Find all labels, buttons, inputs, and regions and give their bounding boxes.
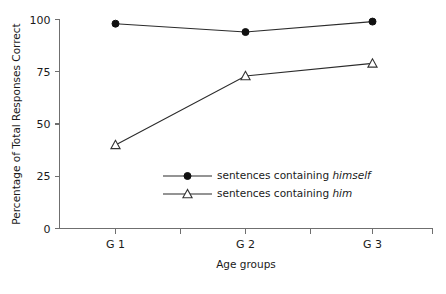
legend-label-emphasis-0: himself: [332, 169, 373, 181]
data-point-s1-2: [368, 59, 377, 67]
x-axis-title: Age groups: [216, 258, 276, 270]
x-axis-tick-labels: G 1G 2G 3: [106, 238, 382, 251]
x-tick-label-2: G 3: [363, 238, 382, 251]
data-point-s1-0: [111, 140, 120, 148]
y-tick-label-75: 75: [37, 66, 51, 79]
data-point-s0-2: [369, 18, 376, 25]
legend-label-prefix-1: sentences containing: [217, 187, 332, 199]
x-tick-label-1: G 2: [236, 238, 255, 251]
line-chart: 0255075100 G 1G 2G 3 Percentage of Total…: [0, 0, 446, 294]
y-tick-label-0: 0: [44, 223, 51, 236]
legend-label-emphasis-1: him: [332, 187, 352, 199]
x-tick-label-0: G 1: [106, 238, 125, 251]
legend-item-0: sentences containing himself: [163, 169, 373, 181]
y-axis-title: Percentage of Total Responses Correct: [10, 23, 22, 224]
chart-figure: 0255075100 G 1G 2G 3 Percentage of Total…: [0, 0, 446, 294]
legend-marker-0: [184, 173, 191, 180]
legend-label-0: sentences containing himself: [217, 169, 373, 181]
legend-label-1: sentences containing him: [217, 187, 352, 199]
chart-legend: sentences containing himselfsentences co…: [163, 169, 373, 199]
data-point-s0-0: [112, 20, 119, 27]
y-tick-label-50: 50: [37, 118, 51, 131]
x-axis-ticks: [116, 229, 433, 234]
y-axis-tick-labels: 0255075100: [30, 14, 51, 236]
y-tick-label-100: 100: [30, 14, 51, 27]
legend-item-1: sentences containing him: [163, 187, 352, 199]
y-axis-ticks: [55, 20, 60, 229]
data-point-s0-1: [242, 29, 249, 36]
y-tick-label-25: 25: [37, 170, 51, 183]
legend-label-prefix-0: sentences containing: [217, 169, 332, 181]
series-layer: [111, 18, 377, 149]
